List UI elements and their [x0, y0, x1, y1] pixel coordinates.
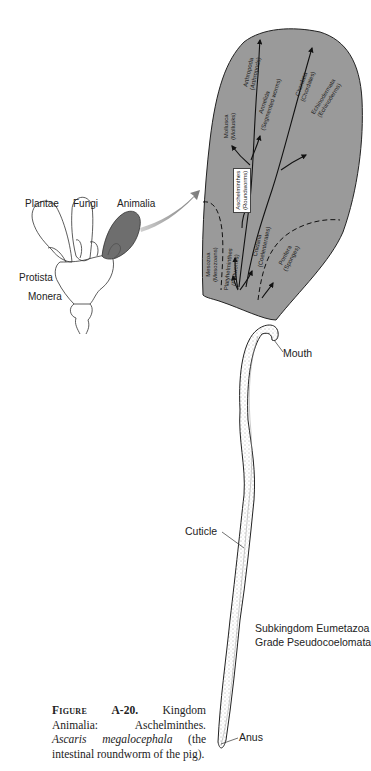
- label-fungi: Fungi: [73, 198, 98, 209]
- classification-grade: Grade Pseudocoelomata: [255, 635, 371, 649]
- animalia-lobe: [102, 211, 140, 259]
- roundworm-body: [218, 325, 278, 748]
- kingdom-tree-drawing: [32, 197, 113, 334]
- label-cuticle: Cuticle: [185, 525, 217, 537]
- label-mouth: Mouth: [283, 347, 312, 359]
- label-monera: Monera: [28, 291, 62, 302]
- figure-caption: Figure A-20. Kingdom Animalia: Aschelmin…: [52, 703, 206, 761]
- zoom-arrow: [140, 190, 200, 232]
- label-anus: Anus: [239, 731, 263, 743]
- classification-subkingdom: Subkingdom Eumetazoa: [255, 621, 371, 635]
- phylum-mesozoa: Mesozoa (Mesozoans): [205, 247, 219, 282]
- caption-species: Ascaris megalocephala: [52, 733, 172, 745]
- label-animalia: Animalia: [117, 198, 155, 209]
- figure-label: Figure: [52, 704, 87, 716]
- phylum-mollusca: Mollusca (Mollusks): [223, 113, 237, 140]
- figure-number: A-20.: [112, 704, 139, 716]
- phylum-aschelminthes-highlighted: Aschelminthes (Roundworms): [233, 168, 251, 213]
- label-plantae: Plantae: [25, 198, 59, 209]
- classification-text: Subkingdom Eumetazoa Grade Pseudocoeloma…: [255, 621, 371, 649]
- label-protista: Protista: [19, 272, 53, 283]
